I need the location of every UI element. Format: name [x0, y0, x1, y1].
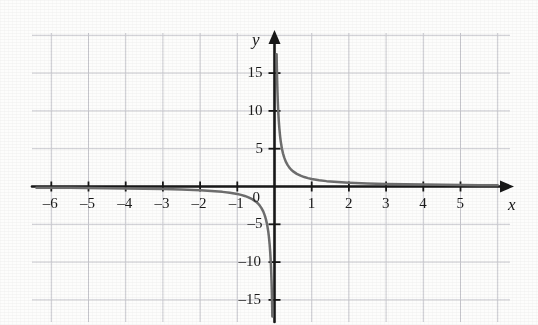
x-tick-label: 2: [345, 196, 353, 211]
y-tick-label: 5: [256, 141, 264, 156]
x-axis-label: x: [508, 196, 516, 213]
y-axis-label: y: [252, 31, 260, 48]
y-tick-label: –5: [248, 216, 263, 231]
x-tick-label: –2: [192, 196, 207, 211]
y-tick-label: 15: [248, 65, 263, 80]
y-tick-label: 10: [248, 103, 263, 118]
x-tick-label: 3: [382, 196, 390, 211]
x-tick-label: –4: [117, 196, 132, 211]
x-tick-label: –6: [43, 196, 58, 211]
origin-label: 0: [253, 190, 261, 205]
y-axis-arrow-icon: [269, 30, 281, 44]
y-tick-label: –10: [239, 254, 262, 269]
curve-branch-positive: [277, 54, 498, 185]
x-tick-label: 4: [419, 196, 427, 211]
x-axis-arrow-icon: [500, 181, 514, 193]
x-tick-label: –5: [80, 196, 95, 211]
x-tick-label: –1: [229, 196, 244, 211]
x-tick-label: –3: [154, 196, 169, 211]
graph-figure: –6–5–4–3–2–11234515105–5–10–150 x y: [0, 0, 538, 325]
x-tick-label: 1: [308, 196, 316, 211]
coordinate-plane: [0, 0, 538, 325]
y-tick-label: –15: [239, 292, 262, 307]
x-tick-label: 5: [457, 196, 465, 211]
